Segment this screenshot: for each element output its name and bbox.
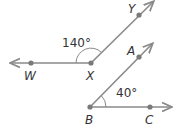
label-c: C	[145, 113, 154, 127]
point-a	[136, 54, 141, 59]
point-c	[147, 104, 152, 109]
diagram-canvas: 140° 40° W X Y A B C	[0, 0, 180, 130]
point-w	[28, 60, 33, 65]
point-x	[88, 60, 93, 65]
point-b	[87, 104, 92, 109]
point-y	[136, 12, 141, 17]
label-w: W	[24, 69, 37, 83]
ray-xy	[91, 2, 153, 63]
angle-measure-40: 40°	[116, 86, 137, 100]
angle-measure-140: 140°	[62, 36, 91, 50]
angle-diagram: 140° 40° W X Y A B C	[0, 0, 180, 130]
angle-arc-b	[101, 96, 106, 107]
label-b: B	[85, 113, 93, 127]
label-x: X	[85, 69, 95, 83]
label-y: Y	[128, 2, 137, 16]
label-a: A	[126, 44, 135, 58]
